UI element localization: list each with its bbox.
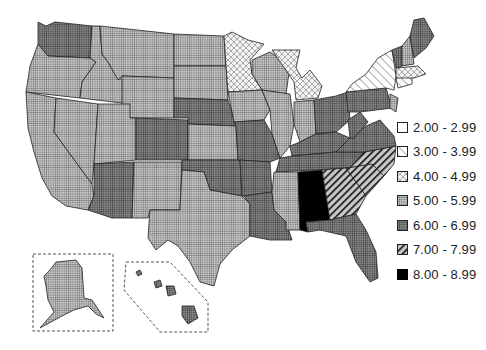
state-alaska <box>40 260 104 328</box>
legend-label: 4.00 - 4.99 <box>413 169 476 184</box>
grid-dark-swatch-icon <box>397 220 408 231</box>
state-ohio <box>314 92 350 134</box>
legend-item-4: 4.00 - 4.99 <box>397 168 476 184</box>
legend-label: 3.00 - 3.99 <box>413 144 476 159</box>
state-washington <box>38 22 92 58</box>
diagonal-dark-swatch-icon <box>397 244 408 255</box>
state-kansas <box>188 124 238 160</box>
state-new-jersey <box>390 94 398 112</box>
state-north-dakota <box>174 34 226 66</box>
legend-label: 5.00 - 5.99 <box>413 193 476 208</box>
legend-label: 2.00 - 2.99 <box>413 120 476 135</box>
state-arizona <box>88 162 134 218</box>
state-colorado <box>136 118 188 160</box>
state-florida <box>306 214 378 282</box>
state-hawaii-big-island <box>182 306 198 324</box>
legend-label: 8.00 - 8.99 <box>413 267 476 282</box>
legend-item-3: 3.00 - 3.99 <box>397 144 476 160</box>
solid-black-swatch-icon <box>397 269 408 280</box>
legend: 2.00 - 2.99 3.00 - 3.99 4.00 - 4.99 5.00… <box>397 119 476 291</box>
diagonal-light-swatch-icon <box>397 146 408 157</box>
blank-swatch-icon <box>397 122 408 133</box>
state-hawaii-kauai <box>136 270 142 276</box>
state-new-york <box>346 50 396 92</box>
legend-item-7: 7.00 - 7.99 <box>397 242 476 258</box>
legend-item-5: 5.00 - 5.99 <box>397 193 476 209</box>
legend-item-6: 6.00 - 6.99 <box>397 217 476 233</box>
legend-item-8: 8.00 - 8.99 <box>397 266 476 282</box>
state-maine <box>410 18 434 58</box>
legend-item-2: 2.00 - 2.99 <box>397 119 476 135</box>
grid-light-swatch-icon <box>397 195 408 206</box>
legend-label: 6.00 - 6.99 <box>413 218 476 233</box>
state-hawaii-maui <box>166 286 176 296</box>
legend-label: 7.00 - 7.99 <box>413 242 476 257</box>
state-arkansas <box>240 160 272 196</box>
state-hawaii-oahu <box>154 280 162 288</box>
state-utah <box>94 104 136 164</box>
state-south-dakota <box>174 66 228 100</box>
state-massachusetts <box>396 66 426 78</box>
crosshatch-swatch-icon <box>397 171 408 182</box>
